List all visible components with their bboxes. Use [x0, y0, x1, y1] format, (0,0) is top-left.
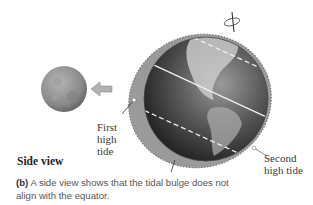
gravity-arrow-icon — [91, 82, 112, 96]
tidal-bulge-side-view-figure: First high tide Second high tide Side vi… — [0, 0, 313, 205]
caption-text: A side view shows that the tidal bulge d… — [16, 177, 229, 201]
first-high-tide-label: First high tide — [97, 121, 127, 157]
moon — [41, 66, 87, 112]
rotation-axis — [223, 12, 240, 32]
view-title: Side view — [17, 155, 63, 167]
second-high-tide-label: Second high tide — [264, 152, 308, 176]
panel-label: (b) — [16, 177, 28, 188]
figure-caption: (b) A side view shows that the tidal bul… — [16, 177, 246, 202]
